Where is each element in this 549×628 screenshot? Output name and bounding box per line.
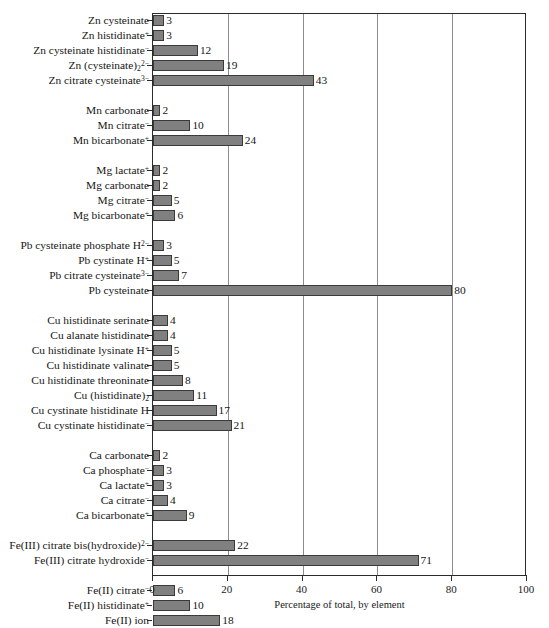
y-tick <box>147 125 152 126</box>
bar-value-label: 12 <box>200 43 211 58</box>
y-tick <box>147 500 152 501</box>
x-tick-0 <box>152 575 153 581</box>
bar-value-label: 71 <box>421 553 432 568</box>
bar-row: Cu cystinate histidinate−21 <box>0 418 549 433</box>
bar-row: Cu histidinate threoninate8 <box>0 373 549 388</box>
y-tick <box>147 50 152 51</box>
x-tick-label-80: 80 <box>446 583 457 595</box>
bar <box>153 330 168 341</box>
bar <box>153 420 232 431</box>
bar-row: Pb cystinate H+5 <box>0 253 549 268</box>
bar-row: Mg carbonate2 <box>0 178 549 193</box>
bar-row: Cu cystinate histidinate H17 <box>0 403 549 418</box>
bar-value-label: 4 <box>170 493 176 508</box>
y-tick <box>147 110 152 111</box>
bar-value-label: 11 <box>196 388 207 403</box>
y-tick <box>147 35 152 36</box>
bar <box>153 390 194 401</box>
y-tick <box>147 20 152 21</box>
bar-row: Pb cysteinate phosphate H2−3 <box>0 238 549 253</box>
y-tick <box>147 395 152 396</box>
x-tick-label-100: 100 <box>518 583 535 595</box>
x-axis-title: Percentage of total, by element <box>152 599 527 610</box>
bar-row: Fe(II) citrate−6 <box>0 583 549 598</box>
bar-row: Fe(II) ion18 <box>0 613 549 628</box>
bar <box>153 540 235 551</box>
bar-row-label: Ca lactate+ <box>99 478 149 493</box>
y-tick <box>147 140 152 141</box>
bar-row-label: Cu histidinate threoninate <box>31 373 149 388</box>
bar-row: Ca carbonate2 <box>0 448 549 463</box>
bar <box>153 480 164 491</box>
bar <box>153 30 164 41</box>
bar-value-label: 17 <box>219 403 230 418</box>
bar-value-label: 5 <box>174 253 180 268</box>
x-tick-80 <box>451 575 452 581</box>
bar-row-label: Ca carbonate <box>89 448 149 463</box>
bar-row-label: Ca bicarbonate+ <box>76 508 149 523</box>
bar-row-label: Pb cystinate H+ <box>78 253 149 268</box>
bar <box>153 465 164 476</box>
bar <box>153 105 160 116</box>
x-tick-label-20: 20 <box>221 583 232 595</box>
bar-row-label: Mg bicarbonate+ <box>73 208 149 223</box>
bar <box>153 450 160 461</box>
y-tick <box>147 380 152 381</box>
bar-row: Mg citrate−5 <box>0 193 549 208</box>
bar <box>153 345 172 356</box>
y-tick <box>147 545 152 546</box>
bar-row-label: Fe(II) citrate− <box>87 583 149 598</box>
bar-value-label: 4 <box>170 313 176 328</box>
bar-value-label: 7 <box>181 268 187 283</box>
bar-row: Mn citrate−10 <box>0 118 549 133</box>
bar-row-label: Fe(II) histidinate+ <box>68 598 149 613</box>
bar-value-label: 5 <box>174 343 180 358</box>
y-tick <box>147 80 152 81</box>
bar-row: Mg lactate+2 <box>0 163 549 178</box>
x-tick-60 <box>376 575 377 581</box>
bar-value-label: 3 <box>166 13 172 28</box>
bar <box>153 555 419 566</box>
bar-row-label: Mn carbonate <box>86 103 149 118</box>
bar-row: Cu histidinate lysinate H+5 <box>0 343 549 358</box>
y-tick <box>147 335 152 336</box>
bar <box>153 510 187 521</box>
bar-row: Ca lactate+3 <box>0 478 549 493</box>
y-tick <box>147 485 152 486</box>
bar-row-label: Mn bicarbonate+ <box>73 133 149 148</box>
bar <box>153 15 164 26</box>
y-tick <box>147 410 152 411</box>
y-tick <box>147 320 152 321</box>
y-tick <box>147 620 152 621</box>
bar-row-label: Cu cystinate histidinate H <box>31 403 149 418</box>
bar-value-label: 5 <box>174 193 180 208</box>
bar-row: Mg bicarbonate+6 <box>0 208 549 223</box>
bar <box>153 360 172 371</box>
bar-row-label: Zn cysteinate histidinate− <box>33 43 149 58</box>
bar-row: Fe(III) citrate hydroxide−71 <box>0 553 549 568</box>
bar-row-label: Cu histidinate lysinate H+ <box>32 343 149 358</box>
bar-row: Pb citrate cysteinate3−7 <box>0 268 549 283</box>
bar <box>153 270 179 281</box>
bar-row: Cu histidinate valinate5 <box>0 358 549 373</box>
bar-row-label: Zn citrate cysteinate3− <box>49 73 149 88</box>
bar-row: Ca citrate−4 <box>0 493 549 508</box>
y-tick <box>147 275 152 276</box>
bar-row-label: Zn cysteinate <box>88 13 149 28</box>
bar-row-label: Fe(III) citrate hydroxide− <box>34 553 149 568</box>
bar-value-label: 24 <box>245 133 256 148</box>
x-axis-line <box>152 575 527 576</box>
bar <box>153 315 168 326</box>
bar-row: Zn cysteinate histidinate−12 <box>0 43 549 58</box>
bar <box>153 285 452 296</box>
bar-row: Mn carbonate2 <box>0 103 549 118</box>
bar-value-label: 2 <box>162 448 168 463</box>
bar-value-label: 8 <box>185 373 191 388</box>
bar-row: Fe(III) citrate bis(hydroxide)2−22 <box>0 538 549 553</box>
bar-row-label: Pb citrate cysteinate3− <box>49 268 149 283</box>
bar-row: Cu histidinate serinate4 <box>0 313 549 328</box>
bar <box>153 585 175 596</box>
bar <box>153 165 160 176</box>
bar-row: Pb cysteinate80 <box>0 283 549 298</box>
bar-row-label: Mg lactate+ <box>96 163 149 178</box>
